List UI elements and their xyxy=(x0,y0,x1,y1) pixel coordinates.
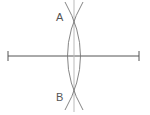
point-b-label: B xyxy=(56,91,63,103)
construction-diagram: A B xyxy=(0,0,150,115)
point-a-label: A xyxy=(56,11,64,23)
